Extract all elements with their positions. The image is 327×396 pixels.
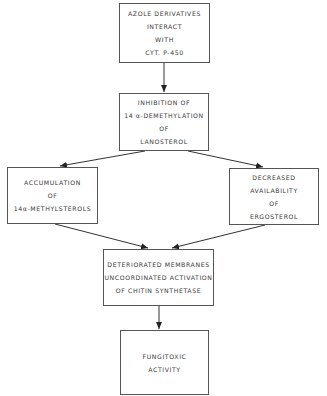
node-text: DETERIORATED MEMBRANES (107, 258, 209, 271)
node-inhibition: INHIBITION OF 14 α-DEMETHYLATION OF LANO… (119, 93, 209, 151)
node-text: OF CHITIN SYNTHETASE (116, 284, 201, 297)
node-fungitoxic-activity: FUNGITOXIC ACTIVITY (120, 330, 209, 395)
node-text: AVAILABILITY (250, 184, 298, 197)
node-text: ACTIVITY (148, 363, 180, 376)
node-azole-derivatives: AZOLE DERIVATIVES INTERACT WITH CYT. P-4… (119, 3, 210, 63)
arrow-accumulation-to-deteriorated (55, 224, 148, 248)
node-text: ERGOSTEROL (250, 210, 298, 223)
node-text: OF (48, 189, 58, 202)
node-text: AZOLE DERIVATIVES (128, 7, 201, 20)
node-text: CYT. P-450 (145, 46, 184, 59)
node-text: DECREASED (252, 171, 295, 184)
node-text: UNCOORDINATED ACTIVATION (104, 271, 212, 284)
node-text: FUNGITOXIC (143, 350, 187, 363)
node-deteriorated-membranes: DETERIORATED MEMBRANES UNCOORDINATED ACT… (103, 249, 214, 306)
arrow-inhibition-to-accumulation (60, 151, 145, 166)
node-accumulation: ACCUMULATION OF 14α-METHYLSTEROLS (7, 167, 98, 224)
node-decreased-availability: DECREASED AVAILABILITY OF ERGOSTEROL (229, 168, 319, 225)
arrow-decreased-to-deteriorated (172, 225, 265, 248)
node-text: INTERACT (147, 20, 182, 33)
node-text: OF (269, 197, 279, 210)
node-text: 14α-METHYLSTEROLS (14, 202, 91, 215)
node-text: LANOSTEROL (140, 135, 188, 148)
node-text: 14 α-DEMETHYLATION (124, 109, 204, 122)
node-text: ACCUMULATION (24, 176, 81, 189)
arrow-inhibition-to-decreased (188, 151, 263, 167)
node-text: OF (159, 122, 169, 135)
node-text: WITH (155, 33, 174, 46)
node-text: INHIBITION OF (138, 96, 190, 109)
